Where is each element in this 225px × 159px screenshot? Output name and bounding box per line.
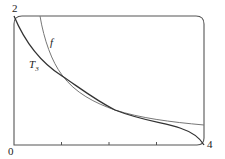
f-label: f xyxy=(50,37,53,48)
y-max-label: 2 xyxy=(12,3,18,14)
x-max-label: 4 xyxy=(207,139,213,150)
curve-t3 xyxy=(14,16,204,145)
t3-label: T3 xyxy=(29,59,39,73)
origin-label: 0 xyxy=(8,146,14,157)
chart-canvas xyxy=(0,0,225,159)
curve-f xyxy=(40,16,204,125)
plot-frame xyxy=(14,16,204,145)
